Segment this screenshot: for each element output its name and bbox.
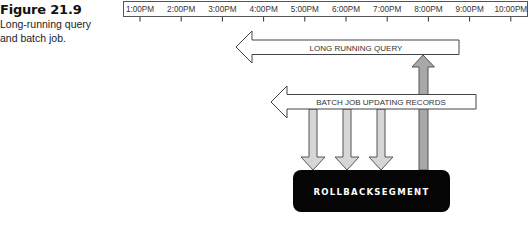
timeline-label: 7:00PM bbox=[373, 5, 401, 14]
read-up-arrow bbox=[412, 55, 435, 170]
arrow-down-icon bbox=[369, 109, 393, 170]
timeline-label: 10:00PM bbox=[494, 5, 527, 14]
arrow-up-icon bbox=[412, 55, 435, 170]
timeline-label: 8:00PM bbox=[414, 5, 442, 14]
write-down-arrows bbox=[301, 109, 393, 170]
rollback-segment-label: ROLLBACKSEGMENT bbox=[313, 187, 429, 197]
timeline-label: 5:00PM bbox=[291, 5, 319, 14]
timeline-label: 4:00PM bbox=[249, 5, 277, 14]
timeline-label: 1:00PM bbox=[126, 5, 154, 14]
arrow-down-icon bbox=[335, 109, 359, 170]
long-running-query-label: LONG RUNNING QUERY bbox=[310, 44, 403, 53]
timeline-label: 6:00PM bbox=[332, 5, 360, 14]
timeline-label: 3:00PM bbox=[208, 5, 236, 14]
timeline-label: 2:00PM bbox=[167, 5, 195, 14]
timeline-ticks bbox=[140, 17, 511, 22]
timeline: 1:00PM2:00PM3:00PM4:00PM5:00PM6:00PM7:00… bbox=[124, 2, 528, 22]
batch-job-label: BATCH JOB UPDATING RECORDS bbox=[316, 98, 446, 107]
arrow-down-icon bbox=[301, 109, 325, 170]
batch-job-arrow: BATCH JOB UPDATING RECORDS bbox=[271, 86, 476, 118]
rollback-segment: ROLLBACKSEGMENT bbox=[293, 170, 450, 212]
diagram-canvas: 1:00PM2:00PM3:00PM4:00PM5:00PM6:00PM7:00… bbox=[0, 0, 530, 231]
timeline-label: 9:00PM bbox=[455, 5, 483, 14]
